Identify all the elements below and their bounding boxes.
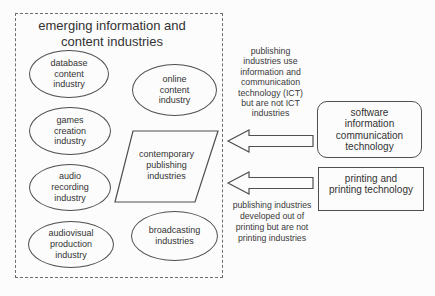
arrow-printing-to-publishing-icon bbox=[228, 172, 313, 194]
note-ict-relationship: publishing industries use information an… bbox=[228, 46, 313, 119]
box-label: software information communication techn… bbox=[336, 107, 403, 153]
ellipse-label: games creation industry bbox=[54, 115, 86, 147]
ellipse-label: audio recording industry bbox=[51, 171, 89, 203]
box-software-ict: software information communication techn… bbox=[317, 101, 422, 158]
note-printing-relationship: publishing industries developed out of p… bbox=[226, 200, 318, 244]
ellipse-label: online content industry bbox=[159, 74, 191, 106]
box-label: printing and printing technology bbox=[329, 173, 413, 196]
diagram-title: emerging information and content industr… bbox=[22, 18, 202, 49]
parallelogram-label: contemporary publishing industries bbox=[124, 149, 209, 182]
ellipse-online-content-industry: online content industry bbox=[132, 64, 217, 116]
ellipse-games-creation-industry: games creation industry bbox=[29, 107, 111, 155]
ellipse-broadcasting-industries: broadcasting industries bbox=[131, 211, 218, 261]
ellipse-label: audiovisual production industry bbox=[48, 228, 93, 260]
ellipse-audiovisual-production-industry: audiovisual production industry bbox=[28, 221, 114, 268]
ellipse-label: database content industry bbox=[50, 58, 87, 90]
arrow-ict-to-publishing-icon bbox=[228, 130, 313, 152]
ellipse-audio-recording-industry: audio recording industry bbox=[29, 164, 111, 211]
box-printing-technology: printing and printing technology bbox=[318, 167, 424, 211]
industries-diagram: emerging information and content industr… bbox=[0, 0, 435, 296]
ellipse-database-content-industry: database content industry bbox=[29, 50, 109, 98]
ellipse-label: broadcasting industries bbox=[149, 225, 201, 247]
